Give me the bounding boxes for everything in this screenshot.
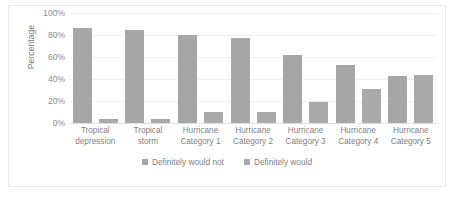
bar-group bbox=[332, 13, 385, 123]
bar-group bbox=[69, 13, 122, 123]
bar-definitely-would[interactable] bbox=[257, 112, 276, 123]
y-axis-tick-label: 60% bbox=[31, 52, 65, 62]
plot-area bbox=[69, 13, 437, 123]
chart-plot-wrapper: Percentage 0%20%40%60%80%100% Tropical d… bbox=[9, 6, 445, 186]
bar-definitely-would[interactable] bbox=[309, 102, 328, 123]
y-axis-tick-label: 80% bbox=[31, 30, 65, 40]
legend-swatch-icon bbox=[244, 159, 250, 165]
x-axis-category-label: Hurricane Category 1 bbox=[174, 126, 227, 147]
bar-groups bbox=[69, 13, 437, 123]
legend-item[interactable]: Definitely would bbox=[244, 157, 312, 167]
chart-legend: Definitely would notDefinitely would bbox=[9, 157, 445, 167]
legend-label: Definitely would not bbox=[152, 157, 224, 167]
bar-definitely-would-not[interactable] bbox=[388, 76, 407, 123]
chart-container: Percentage 0%20%40%60%80%100% Tropical d… bbox=[8, 5, 446, 187]
bar-definitely-would-not[interactable] bbox=[336, 65, 355, 123]
y-axis-tick-label: 100% bbox=[31, 8, 65, 18]
y-axis-tick-labels: 0%20%40%60%80%100% bbox=[31, 13, 65, 123]
bar-group bbox=[227, 13, 280, 123]
x-axis-category-label: Tropical depression bbox=[69, 126, 122, 147]
bar-definitely-would[interactable] bbox=[204, 112, 223, 123]
gridline bbox=[69, 123, 437, 124]
bar-group bbox=[122, 13, 175, 123]
y-axis-tick-label: 0% bbox=[31, 118, 65, 128]
bar-group bbox=[174, 13, 227, 123]
bar-definitely-would[interactable] bbox=[362, 89, 381, 123]
bar-group bbox=[384, 13, 437, 123]
x-axis-category-label: Hurricane Category 5 bbox=[384, 126, 437, 147]
bar-definitely-would[interactable] bbox=[99, 119, 118, 123]
y-axis-tick-label: 40% bbox=[31, 74, 65, 84]
x-axis-category-label: Hurricane Category 2 bbox=[227, 126, 280, 147]
bar-definitely-would[interactable] bbox=[414, 75, 433, 123]
bar-definitely-would-not[interactable] bbox=[231, 38, 250, 123]
x-axis-category-label: Hurricane Category 4 bbox=[332, 126, 385, 147]
legend-swatch-icon bbox=[142, 159, 148, 165]
x-axis-category-label: Hurricane Category 3 bbox=[279, 126, 332, 147]
x-axis-category-labels: Tropical depressionTropical stormHurrica… bbox=[69, 126, 437, 147]
x-axis-category-label: Tropical storm bbox=[122, 126, 175, 147]
bar-definitely-would-not[interactable] bbox=[73, 28, 92, 123]
bar-group bbox=[279, 13, 332, 123]
bar-definitely-would-not[interactable] bbox=[283, 55, 302, 123]
legend-item[interactable]: Definitely would not bbox=[142, 157, 224, 167]
legend-label: Definitely would bbox=[254, 157, 312, 167]
bar-definitely-would[interactable] bbox=[151, 119, 170, 123]
y-axis-tick-label: 20% bbox=[31, 96, 65, 106]
bar-definitely-would-not[interactable] bbox=[125, 30, 144, 124]
bar-definitely-would-not[interactable] bbox=[178, 35, 197, 123]
